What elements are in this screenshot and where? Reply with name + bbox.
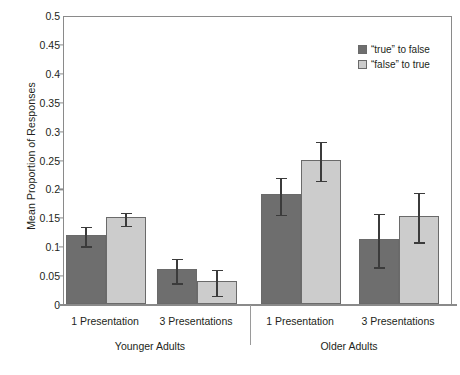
x-axis-label: 3 Presentations (160, 315, 233, 327)
error-bar-cap-lower (316, 181, 327, 182)
group-divider (250, 305, 251, 345)
error-bar-line (216, 270, 217, 295)
group-label: Older Adults (320, 340, 377, 352)
error-bar-cap-upper (212, 270, 223, 271)
y-axis-tick-label: 0.35 (0, 97, 60, 109)
error-bar-cap-upper (276, 178, 287, 179)
y-axis-tick-label: 0.45 (0, 39, 60, 51)
error-bar-cap-upper (414, 193, 425, 194)
error-bar-line (176, 259, 177, 283)
y-axis-tick-label: 0 (0, 299, 60, 311)
y-axis-tick-label: 0.05 (0, 270, 60, 282)
y-axis-tick-label: 0.5 (0, 10, 60, 22)
error-bar-cap-upper (81, 227, 92, 228)
y-axis-tick-label: 0.1 (0, 241, 60, 253)
x-axis-label: 1 Presentation (266, 315, 334, 327)
bar-chart-figure: Mean Proportion of Responses 0.50.450.40… (0, 0, 460, 375)
bar (106, 217, 146, 304)
error-bar-cap-lower (414, 242, 425, 243)
error-bar-line (85, 227, 86, 247)
legend-item: “true” to false (358, 44, 430, 55)
error-bar-cap-upper (316, 142, 327, 143)
y-axis-tick-label: 0.15 (0, 212, 60, 224)
legend-swatch-icon (358, 45, 367, 54)
error-bar-cap-lower (276, 215, 287, 216)
error-bar-cap-lower (121, 226, 132, 227)
error-bar-cap-upper (172, 259, 183, 260)
y-axis-tick-label: 0.25 (0, 155, 60, 167)
y-axis-tick-label: 0.3 (0, 126, 60, 138)
error-bar-line (378, 214, 379, 267)
legend-label: “true” to false (371, 44, 430, 55)
error-bar-cap-upper (374, 214, 385, 215)
x-axis-baseline (58, 304, 457, 306)
x-axis-label: 3 Presentations (362, 315, 435, 327)
group-label: Younger Adults (115, 340, 185, 352)
legend-label: “false” to true (371, 59, 430, 70)
legend-swatch-icon (358, 60, 367, 69)
error-bar-cap-lower (212, 296, 223, 297)
error-bar-cap-lower (172, 283, 183, 284)
error-bar-line (125, 213, 126, 226)
y-axis-tick-label: 0.4 (0, 68, 60, 80)
error-bar-line (418, 193, 419, 243)
legend: “true” to false“false” to true (358, 44, 430, 74)
error-bar-line (280, 178, 281, 215)
error-bar-cap-upper (121, 213, 132, 214)
error-bar-cap-lower (81, 246, 92, 247)
error-bar-line (320, 142, 321, 181)
legend-item: “false” to true (358, 59, 430, 70)
error-bar-cap-lower (374, 267, 385, 268)
x-axis-label: 1 Presentation (71, 315, 139, 327)
y-axis-tick-label: 0.2 (0, 183, 60, 195)
